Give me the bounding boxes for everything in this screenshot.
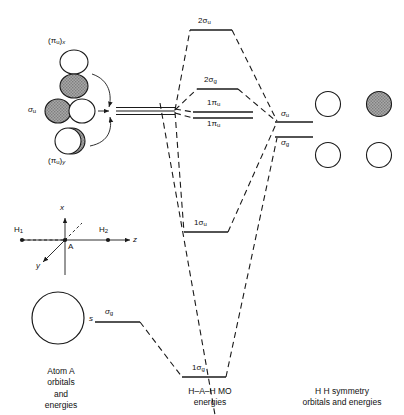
axis-label-x: x [60, 204, 64, 212]
mo-levels [182, 30, 253, 377]
sigma-u-left-circle [316, 92, 341, 117]
label-pi-u-y: (πu)y [48, 157, 65, 165]
label-s-orbital: s [89, 315, 93, 323]
label-1-sigma-g: 1σg [192, 364, 205, 372]
orbital-pi-u-y [55, 128, 85, 154]
label-pi-u-x: (πu)x [48, 37, 65, 45]
caption-center: H–A–H MOenergies [168, 386, 252, 409]
label-sigma-g-atomic: σg [105, 308, 113, 316]
sigma-u-right-circle [367, 92, 392, 117]
orbital-pi-u-x [60, 50, 88, 98]
label-1-sigma-u: 1σu [194, 219, 207, 227]
correlation-lines [140, 30, 277, 415]
axis-label-h1: H1 [14, 226, 23, 234]
label-1-pi-u-lower: 1πu [207, 120, 220, 128]
symmetry-levels [275, 122, 313, 137]
label-sigma-u-p: σu [28, 106, 36, 114]
label-2-sigma-g: 2σg [204, 76, 217, 84]
orbital-s [32, 292, 84, 344]
label-1-pi-u-upper: 1πu [207, 99, 220, 107]
label-2-sigma-u: 2σu [198, 17, 211, 25]
axis-label-y: y [36, 262, 40, 270]
sigma-g-left-circle [316, 143, 341, 168]
caption-right: H H symmetryorbitals and energies [282, 386, 402, 409]
label-sigma-g-symmetry: σg [281, 139, 289, 147]
label-sigma-u-symmetry: σu [281, 110, 289, 118]
level-atomic-p-degenerate [116, 108, 175, 115]
sigma-g-right-circle [367, 143, 392, 168]
orbital-sigma-u-p [45, 99, 95, 123]
caption-left: Atom Aorbitalsandenergies [22, 366, 100, 412]
symmetry-orbital-circles [316, 92, 392, 168]
axis-label-atom-a: A [68, 243, 73, 251]
axis-label-h2: H2 [99, 226, 108, 234]
axis-label-z: z [133, 236, 137, 244]
